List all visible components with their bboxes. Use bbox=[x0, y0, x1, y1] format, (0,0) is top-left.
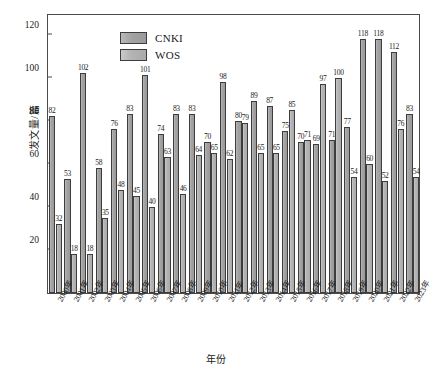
bar-cnki[interactable] bbox=[127, 114, 133, 293]
bar-cnki[interactable] bbox=[282, 131, 288, 293]
bar-value-label: 70 bbox=[204, 132, 211, 141]
bar-value-label: 64 bbox=[195, 145, 202, 154]
bar-value-label: 35 bbox=[102, 208, 109, 217]
bar-value-label: 100 bbox=[333, 68, 343, 77]
bar-wos[interactable] bbox=[335, 78, 341, 293]
bar-cnki[interactable] bbox=[80, 73, 86, 293]
bar-cnki[interactable] bbox=[313, 144, 319, 293]
bar-cnki[interactable] bbox=[329, 140, 335, 293]
bar-cnki[interactable] bbox=[360, 39, 366, 293]
bar-wos[interactable] bbox=[149, 207, 155, 293]
bar-wos[interactable] bbox=[413, 177, 419, 293]
bar-group: 5835 bbox=[95, 15, 111, 293]
bar-group: 9862 bbox=[219, 15, 235, 293]
bar-value-label: 54 bbox=[351, 167, 358, 176]
bar-value-label: 71 bbox=[328, 130, 335, 139]
bar-cnki[interactable] bbox=[142, 75, 148, 293]
legend-swatch-wos bbox=[120, 49, 147, 61]
bar-group: 5318 bbox=[64, 15, 80, 293]
bar-cnki[interactable] bbox=[204, 142, 210, 293]
bar-value-label: 71 bbox=[304, 130, 311, 139]
bar-value-label: 52 bbox=[382, 171, 389, 180]
bar-wos[interactable] bbox=[320, 84, 326, 293]
y-tick-label: 80 bbox=[0, 106, 44, 116]
bars-layer: 8232531810218583576488345101407463834683… bbox=[48, 15, 419, 293]
bar-value-label: 58 bbox=[95, 158, 102, 167]
bar-cnki[interactable] bbox=[391, 52, 397, 293]
bar-cnki[interactable] bbox=[267, 106, 273, 293]
bar-wos[interactable] bbox=[366, 164, 372, 293]
bar-value-label: 18 bbox=[71, 244, 78, 253]
bar-cnki[interactable] bbox=[375, 39, 381, 293]
bar-group: 8079 bbox=[235, 15, 251, 293]
bar-wos[interactable] bbox=[211, 153, 217, 293]
legend-item-cnki[interactable]: CNKI bbox=[120, 30, 183, 45]
bar-wos[interactable] bbox=[289, 110, 295, 293]
legend-label-cnki: CNKI bbox=[155, 32, 183, 44]
y-tick-label: 60 bbox=[0, 149, 44, 159]
chart-container: 发文量/篇 20406080100120 8232531810218583576… bbox=[0, 0, 432, 368]
bar-cnki[interactable] bbox=[96, 168, 102, 293]
bar-value-label: 83 bbox=[188, 104, 195, 113]
bar-wos[interactable] bbox=[227, 159, 233, 293]
chart-legend: CNKI WOS bbox=[120, 30, 183, 64]
bar-cnki[interactable] bbox=[173, 114, 179, 293]
bar-wos[interactable] bbox=[351, 177, 357, 293]
bar-group: 71100 bbox=[328, 15, 344, 293]
bar-wos[interactable] bbox=[196, 155, 202, 293]
bar-wos[interactable] bbox=[382, 181, 388, 293]
bar-wos[interactable] bbox=[164, 157, 170, 293]
bar-group: 8232 bbox=[48, 15, 64, 293]
bar-wos[interactable] bbox=[118, 190, 124, 293]
bar-value-label: 48 bbox=[117, 180, 124, 189]
bar-group: 10218 bbox=[79, 15, 95, 293]
bar-cnki[interactable] bbox=[64, 179, 70, 293]
bar-value-label: 77 bbox=[344, 117, 351, 126]
bar-value-label: 74 bbox=[157, 124, 164, 133]
bar-wos[interactable] bbox=[273, 153, 279, 293]
bar-value-label: 65 bbox=[211, 143, 218, 152]
y-tick-label: 40 bbox=[0, 192, 44, 202]
bar-value-label: 83 bbox=[406, 104, 413, 113]
bar-group: 8965 bbox=[250, 15, 266, 293]
bar-value-label: 40 bbox=[149, 197, 156, 206]
bar-cnki[interactable] bbox=[49, 116, 55, 293]
bar-cnki[interactable] bbox=[251, 101, 257, 293]
legend-item-wos[interactable]: WOS bbox=[120, 47, 183, 62]
y-tick-label: 20 bbox=[0, 235, 44, 245]
bar-cnki[interactable] bbox=[111, 129, 117, 293]
bar-value-label: 62 bbox=[226, 149, 233, 158]
bar-group: 11860 bbox=[359, 15, 375, 293]
bar-value-label: 79 bbox=[242, 113, 249, 122]
bar-value-label: 87 bbox=[266, 96, 273, 105]
y-tick-label: 100 bbox=[0, 63, 44, 73]
bar-cnki[interactable] bbox=[298, 142, 304, 293]
bar-cnki[interactable] bbox=[344, 127, 350, 293]
bar-value-label: 89 bbox=[251, 91, 258, 100]
bar-wos[interactable] bbox=[56, 224, 62, 293]
bar-value-label: 97 bbox=[320, 74, 327, 83]
bar-group: 7071 bbox=[297, 15, 313, 293]
bar-wos[interactable] bbox=[304, 140, 310, 293]
bar-value-label: 45 bbox=[133, 186, 140, 195]
bar-group: 6997 bbox=[312, 15, 328, 293]
bar-group: 11852 bbox=[374, 15, 390, 293]
bar-wos[interactable] bbox=[398, 129, 404, 293]
bar-value-label: 69 bbox=[313, 134, 320, 143]
bar-wos[interactable] bbox=[258, 153, 264, 293]
bar-cnki[interactable] bbox=[406, 114, 412, 293]
bar-cnki[interactable] bbox=[235, 121, 241, 293]
bar-cnki[interactable] bbox=[158, 134, 164, 293]
bar-wos[interactable] bbox=[242, 123, 248, 293]
bar-group: 7585 bbox=[281, 15, 297, 293]
bar-wos[interactable] bbox=[133, 196, 139, 293]
bar-value-label: 112 bbox=[389, 42, 399, 51]
bar-group: 8354 bbox=[405, 15, 421, 293]
bar-value-label: 98 bbox=[220, 72, 227, 81]
bar-value-label: 102 bbox=[78, 63, 88, 72]
bar-value-label: 118 bbox=[358, 29, 368, 38]
bar-wos[interactable] bbox=[180, 194, 186, 293]
bar-cnki[interactable] bbox=[220, 82, 226, 293]
bar-cnki[interactable] bbox=[189, 114, 195, 293]
bar-value-label: 18 bbox=[86, 244, 93, 253]
